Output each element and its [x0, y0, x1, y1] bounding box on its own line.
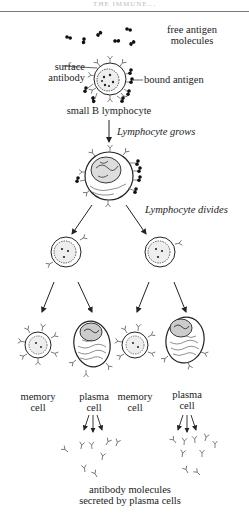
arrow-to-plasma-right	[174, 282, 186, 312]
memory-cell-left-line1: memory	[13, 391, 63, 402]
surface-antibody-label: surface antibody	[25, 61, 85, 83]
lymphocyte-grows-label: Lymphocyte grows	[117, 126, 195, 137]
antibody-molecules-line1: antibody molecules	[60, 484, 200, 495]
activated-lymphocyte-cell	[75, 145, 142, 207]
free-antigen-label-line2: molecules	[142, 35, 242, 46]
memory-cell-right-drawing	[115, 324, 156, 360]
free-antigen-molecules	[65, 27, 136, 47]
memory-cell-right-line1: memory	[110, 391, 160, 402]
daughter-cell-right	[145, 237, 182, 267]
secretion-arrows-right	[178, 415, 196, 432]
small-b-lymphocyte-cell	[83, 56, 134, 104]
memory-cell-right-line2: cell	[110, 402, 160, 413]
secretion-arrows-left	[84, 415, 102, 432]
free-antigen-label: free antigen molecules	[142, 24, 242, 46]
plasma-cell-right-label: plasma cell	[162, 389, 212, 411]
memory-cell-left-drawing	[18, 324, 59, 365]
plasma-cell-right-line1: plasma	[162, 389, 212, 400]
surface-antibody-label-line2: antibody	[25, 72, 85, 83]
arrow-to-plasma-left	[78, 282, 92, 312]
plasma-cell-right-line2: cell	[162, 400, 212, 411]
bound-antigen-label: bound antigen	[144, 74, 204, 85]
antibody-molecules-line2: secreted by plasma cells	[60, 495, 200, 506]
plasma-cell-left-drawing	[69, 318, 114, 377]
small-b-lymphocyte-label: small B lymphocyte	[44, 105, 174, 116]
secreted-antibodies-left	[61, 438, 121, 479]
divide-arrow-left	[72, 205, 92, 234]
antibody-molecules-label: antibody molecules secreted by plasma ce…	[60, 484, 200, 506]
surface-antibody-label-line1: surface	[25, 61, 85, 72]
secreted-antibodies-right	[170, 434, 218, 477]
lymphocyte-divides-label: Lymphocyte divides	[145, 204, 228, 215]
memory-cell-left-label: memory cell	[13, 391, 63, 413]
divide-arrow-right	[126, 205, 146, 234]
plasma-cell-right-drawing	[161, 314, 208, 369]
memory-cell-left-line2: cell	[13, 402, 63, 413]
daughter-cell-left	[46, 234, 88, 267]
memory-cell-right-label: memory cell	[110, 391, 160, 413]
free-antigen-label-line1: free antigen	[142, 24, 242, 35]
arrow-to-memory-right	[137, 282, 149, 312]
arrow-to-memory-left	[42, 282, 54, 312]
